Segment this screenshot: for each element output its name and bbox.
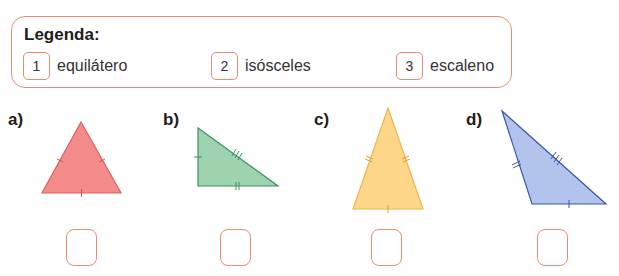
legend-box: Legenda: 1 equilátero 2 isósceles 3 esca… bbox=[11, 16, 512, 88]
item-label-d: d) bbox=[466, 110, 482, 130]
legend-label: equilátero bbox=[57, 57, 127, 75]
legend-label: isósceles bbox=[245, 57, 311, 75]
triangle-c-isosceles-icon bbox=[345, 100, 430, 215]
legend-item-scalene: 3 escaleno bbox=[396, 52, 494, 80]
triangle-a-equilateral-icon bbox=[35, 115, 130, 205]
item-label-b: b) bbox=[163, 110, 179, 130]
answer-box-c[interactable] bbox=[371, 229, 402, 266]
legend-item-equilateral: 1 equilátero bbox=[23, 52, 127, 80]
answer-box-a[interactable] bbox=[66, 229, 97, 266]
legend-item-isosceles: 2 isósceles bbox=[211, 52, 311, 80]
triangle-d-scalene-icon bbox=[495, 105, 615, 210]
item-label-a: a) bbox=[8, 110, 23, 130]
legend-number-box: 3 bbox=[396, 52, 423, 80]
item-label-c: c) bbox=[314, 110, 329, 130]
legend-number-box: 2 bbox=[211, 52, 238, 80]
legend-title: Legenda: bbox=[24, 25, 100, 45]
answer-box-d[interactable] bbox=[537, 229, 568, 266]
triangle-b-scalene-icon bbox=[190, 120, 285, 195]
answer-box-b[interactable] bbox=[220, 229, 251, 266]
legend-label: escaleno bbox=[430, 57, 494, 75]
legend-number-box: 1 bbox=[23, 52, 50, 80]
